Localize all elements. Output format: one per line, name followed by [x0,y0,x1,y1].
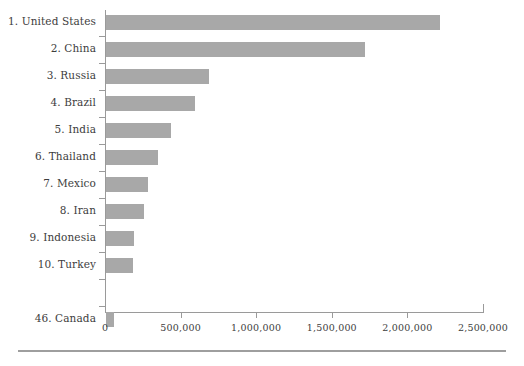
bar-row: 9. Indonesia [0,226,524,253]
bar [106,258,133,273]
bar-row: 5. India [0,118,524,145]
bar-row-label: 6. Thailand [0,149,96,163]
bar-row: 6. Thailand [0,145,524,172]
bar-row-label: 1. United States [0,14,96,28]
x-axis-tick [332,312,333,318]
bar-row-label: 4. Brazil [0,95,96,109]
y-axis-tick [99,90,106,91]
bar [106,150,158,165]
bar-row: 3. Russia [0,64,524,91]
y-axis-tick [99,36,106,37]
bar-rows-container: 1. United States2. China3. Russia4. Braz… [0,10,524,312]
footer-divider [18,350,506,352]
bar-row-label: 10. Turkey [0,257,96,271]
bar [106,96,195,111]
y-axis-tick [99,225,106,226]
y-axis-tick [99,279,106,280]
bar-row-label: 8. Iran [0,203,96,217]
bar-row: 4. Brazil [0,91,524,118]
bar-row-label: 3. Russia [0,68,96,82]
bar-row-label: 2. China [0,41,96,55]
bar [106,177,148,192]
x-axis-tick [256,312,257,318]
bar-row: 1. United States [0,10,524,37]
x-axis-tick-label: 2,500,000 [423,322,524,333]
bar-row-label: 5. India [0,122,96,136]
bar-chart-figure: 1. United States2. China3. Russia4. Braz… [0,0,524,366]
y-axis-tick [99,306,106,307]
y-axis-tick [99,171,106,172]
y-axis-tick [99,252,106,253]
bar-row-label: 7. Mexico [0,176,96,190]
x-axis-tick [483,304,484,313]
bar [106,123,171,138]
bar [106,69,209,84]
bar [106,15,440,30]
bar-row: 10. Turkey [0,253,524,280]
x-axis-tick [181,312,182,318]
bar-row: 8. Iran [0,199,524,226]
bar-row [0,280,524,307]
bar [106,231,134,246]
y-axis-tick [99,63,106,64]
y-axis-tick [99,198,106,199]
y-axis-tick [99,144,106,145]
y-axis-tick [99,117,106,118]
bar [106,204,144,219]
bar-row: 2. China [0,37,524,64]
x-axis-tick [407,312,408,318]
bar-row: 7. Mexico [0,172,524,199]
bar [106,42,365,57]
bar-row-label: 9. Indonesia [0,230,96,244]
